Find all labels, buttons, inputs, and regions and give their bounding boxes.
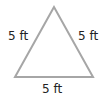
left-side-label: 5 ft (8, 30, 28, 42)
bottom-side-label: 5 ft (42, 83, 62, 95)
right-side-label: 5 ft (78, 30, 98, 42)
